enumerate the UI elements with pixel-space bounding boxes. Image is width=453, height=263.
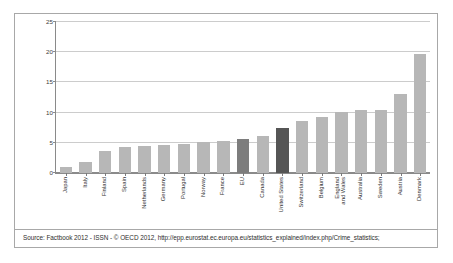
source-note: Source: Factbook 2012 - ISSN - © OECD 20… (23, 233, 431, 242)
x-axis-label-slot: Australia (350, 176, 370, 228)
x-axis-label-slot: Japan (55, 176, 75, 228)
bar-slot (154, 22, 174, 173)
bar-slot (292, 22, 312, 173)
y-axis-label: Rates of burglary (as recorded by police… (23, 0, 37, 20)
bar[interactable] (99, 151, 111, 173)
x-axis-tick-label: Austria (396, 177, 402, 195)
x-axis-tick-label: United States (278, 177, 284, 212)
x-axis-tick-label: Australia (357, 177, 363, 200)
y-axis-tick-label: 25 (46, 18, 53, 25)
bar-slot (351, 22, 371, 173)
bar-slot (253, 22, 273, 173)
x-axis-label-slot: France (213, 176, 233, 228)
x-axis-label-slot: United States (272, 176, 292, 228)
x-axis-tick-label-line: Finland (101, 177, 107, 196)
x-axis-tick-label: Germany (160, 177, 166, 201)
chart-plot-area: Rates of burglary (as recorded by police… (15, 14, 437, 247)
bar[interactable] (217, 141, 229, 173)
x-axis-tick-label-line: Austria (396, 177, 402, 195)
x-axis-tick-label: EU (239, 177, 245, 185)
bar-slot (214, 22, 234, 173)
plot-canvas: 0510152025 (55, 22, 430, 174)
x-axis-tick-label: Finland (101, 177, 107, 196)
y-axis-label-line2: per 100,000 (30, 0, 37, 20)
x-axis-label-slot: Belgium (311, 176, 331, 228)
bar[interactable] (257, 136, 269, 173)
bar[interactable] (79, 162, 91, 173)
bar[interactable] (394, 94, 406, 173)
x-axis-tick-label-line: Belgium (318, 177, 324, 198)
x-axis-tick-label: Canada (259, 177, 265, 198)
bar-slot (371, 22, 391, 173)
x-axis-tick-label-line: Canada (259, 177, 265, 198)
bar-series (56, 22, 430, 173)
x-axis-tick-label-line: United States (278, 177, 284, 212)
x-axis-tick-label: Denmark (416, 177, 422, 201)
bar[interactable] (414, 54, 426, 173)
bar[interactable] (119, 147, 131, 173)
x-axis-tick-label: France (219, 177, 225, 195)
x-axis-tick-label-line: Spain (121, 177, 127, 192)
bar[interactable] (335, 112, 347, 173)
bar[interactable] (355, 110, 367, 173)
bar[interactable] (197, 142, 209, 173)
x-axis-tick-label-line: Japan (62, 177, 68, 193)
chart-figure: Rates of burglary (as recorded by police… (14, 13, 438, 248)
y-axis-label-line1: Rates of burglary (as recorded by police… (23, 0, 30, 20)
y-axis-tick-label: 20 (46, 48, 53, 55)
x-axis-tick-label-line: Switzerland (298, 177, 304, 207)
bar-slot (273, 22, 293, 173)
bar[interactable] (138, 146, 150, 173)
bar[interactable] (178, 144, 190, 173)
x-axis-label-slot: Englandand Wales (331, 176, 351, 228)
x-axis-tick-label: Portugal (180, 177, 186, 199)
bar[interactable] (276, 128, 288, 173)
x-axis-tick-label-line: Sweden (377, 177, 383, 198)
x-axis-tick-label: Italy (81, 177, 87, 188)
bar-slot (56, 22, 76, 173)
bar[interactable] (296, 121, 308, 173)
x-axis-label-slot: Sweden (370, 176, 390, 228)
bar-slot (135, 22, 155, 173)
x-axis-label-slot: Italy (75, 176, 95, 228)
bar-slot (194, 22, 214, 173)
bar-slot (312, 22, 332, 173)
x-axis-label-slot: Denmark (409, 176, 429, 228)
x-axis-label-slot: Switzerland (291, 176, 311, 228)
bar-slot (174, 22, 194, 173)
x-axis-tick-label: Sweden (377, 177, 383, 198)
bar-slot (332, 22, 352, 173)
x-axis-tick-label-line: Australia (357, 177, 363, 200)
bar[interactable] (316, 117, 328, 173)
x-axis-tick-label: Switzerland (298, 177, 304, 207)
x-axis-label-slot: Portugal (173, 176, 193, 228)
x-axis-tick-label-line: Netherlands (140, 177, 146, 209)
x-axis-tick-label-line: France (219, 177, 225, 195)
bar-slot (233, 22, 253, 173)
x-axis-label-slot: Finland (94, 176, 114, 228)
x-axis-tick-label: Japan (62, 177, 68, 193)
x-axis-tick-label-line: Norway (200, 177, 206, 197)
x-axis-tick-label: Englandand Wales (334, 177, 346, 205)
x-axis-label-slot: Austria (390, 176, 410, 228)
x-axis-tick-label-line: Denmark (416, 177, 422, 201)
x-axis-tick-label: Netherlands (140, 177, 146, 209)
x-axis-tick-label-line: Germany (160, 177, 166, 201)
x-axis-tick-label: Belgium (318, 177, 324, 198)
x-axis-label-slot: EU (232, 176, 252, 228)
bar[interactable] (158, 145, 170, 173)
x-axis-tick-label-line: EU (239, 177, 245, 185)
bar[interactable] (237, 139, 249, 173)
x-axis-tick-label-line: Portugal (180, 177, 186, 199)
x-axis-tick-label: Norway (200, 177, 206, 197)
bar-slot (115, 22, 135, 173)
bar-slot (76, 22, 96, 173)
bar[interactable] (375, 110, 387, 173)
x-axis-label-slot: Netherlands (134, 176, 154, 228)
source-divider (15, 229, 437, 230)
x-axis-label-slot: Germany (153, 176, 173, 228)
x-axis-tick-label-line: and Wales (340, 177, 346, 205)
x-axis-tick-label-line: Italy (81, 177, 87, 188)
y-axis-tick-label: 10 (46, 108, 53, 115)
x-axis-labels: JapanItalyFinlandSpainNetherlandsGermany… (55, 176, 429, 228)
